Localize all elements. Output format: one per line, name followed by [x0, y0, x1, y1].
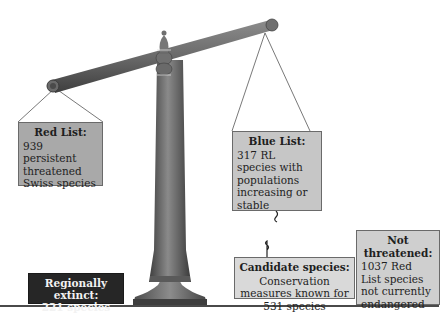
regionally-extinct-box: Regionally extinct: 221 species: [28, 273, 124, 304]
not-threatened-body: 1037 Red List species not currently enda…: [361, 260, 435, 310]
candidate-species-title: Candidate species:: [239, 261, 350, 274]
regionally-extinct-title: Regionally extinct:: [33, 277, 119, 301]
not-threatened-title: Not threatened:: [361, 234, 435, 259]
hook-icon: [266, 241, 269, 257]
candidate-species-body: Conservation measures known for 531 spec…: [239, 275, 350, 313]
red-list-body: 939 persistent threatened Swiss species: [23, 140, 98, 190]
blue-list-body: 317 RL species with populations increasi…: [237, 149, 317, 212]
hook-icon: [275, 211, 278, 222]
blue-list-box: Blue List: 317 RL species with populatio…: [232, 131, 322, 211]
regionally-extinct-body: 221 species: [33, 301, 119, 313]
red-list-title: Red List:: [23, 126, 98, 139]
candidate-species-box: Candidate species: Conservation measures…: [234, 257, 355, 299]
not-threatened-box: Not threatened: 1037 Red List species no…: [356, 230, 440, 305]
red-list-box: Red List: 939 persistent threatened Swis…: [18, 122, 103, 186]
blue-list-title: Blue List:: [237, 135, 317, 148]
